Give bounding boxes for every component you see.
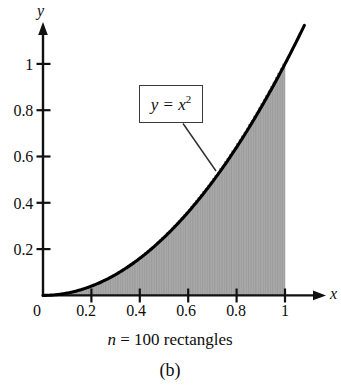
function-label-lhs: y — [151, 95, 159, 114]
riemann-rectangle — [246, 128, 248, 295]
riemann-rectangle — [171, 228, 173, 296]
riemann-rectangle — [234, 147, 236, 295]
riemann-rectangle — [183, 215, 185, 296]
riemann-rectangle — [176, 223, 178, 296]
riemann-rectangle — [135, 260, 137, 295]
riemann-rectangle — [125, 267, 127, 295]
riemann-rectangle — [159, 240, 161, 296]
riemann-rectangle — [268, 91, 270, 296]
riemann-rectangle — [263, 99, 265, 295]
riemann-rectangle — [147, 251, 149, 296]
caption-variable-n: n — [107, 330, 116, 349]
riemann-rectangle — [244, 132, 246, 295]
x-axis-label: x — [330, 286, 337, 302]
caption-equals: = — [116, 330, 134, 349]
riemann-rectangle — [210, 182, 212, 295]
riemann-rectangle — [237, 144, 239, 296]
x-tick-label-0.4: 0.4 — [126, 303, 145, 319]
riemann-rectangle — [193, 204, 195, 296]
riemann-rectangle — [227, 158, 229, 295]
y-tick-label-0.8: 0.8 — [14, 103, 33, 119]
riemann-rectangle — [261, 104, 263, 296]
riemann-rectangle — [154, 244, 156, 295]
riemann-rectangle — [149, 249, 151, 296]
riemann-rectangle — [256, 112, 258, 295]
x-tick-label-0.8: 0.8 — [226, 303, 245, 319]
riemann-rectangle — [275, 78, 277, 296]
riemann-rectangle — [111, 276, 113, 295]
riemann-rectangle — [152, 246, 154, 295]
figure-caption: n = 100 rectangles — [107, 331, 232, 348]
riemann-rectangle — [198, 198, 200, 296]
riemann-rectangle — [120, 270, 122, 295]
riemann-rectangle — [162, 238, 164, 296]
riemann-rectangle — [169, 230, 171, 295]
riemann-rectangle — [241, 136, 243, 295]
riemann-rectangle — [232, 151, 234, 295]
x-tick-label-1: 1 — [281, 303, 289, 319]
riemann-rectangle — [113, 275, 115, 296]
y-axis-label: y — [37, 3, 44, 19]
riemann-rectangle — [215, 175, 217, 295]
x-tick-label-0.2: 0.2 — [76, 303, 95, 319]
riemann-rectangle — [212, 179, 214, 296]
function-label-equals: = — [158, 95, 178, 114]
riemann-rectangle — [145, 253, 147, 296]
riemann-rectangle — [130, 264, 132, 296]
riemann-rectangle — [249, 124, 251, 295]
riemann-rectangle — [280, 69, 282, 296]
figure-container: 1 0.8 0.6 0.4 0.2 0 0.2 0.4 0.6 0.8 1 y … — [0, 0, 341, 388]
riemann-rectangle — [258, 108, 260, 296]
riemann-rectangle — [195, 201, 197, 296]
function-label-text: y = x2 — [151, 96, 192, 113]
callout-leader-line — [183, 124, 216, 172]
y-tick-label-0.4: 0.4 — [14, 196, 33, 212]
function-label-box: y = x2 — [139, 85, 203, 123]
x-tick-label-0: 0 — [33, 303, 41, 319]
riemann-rectangle — [203, 191, 205, 295]
riemann-rectangle — [225, 162, 227, 296]
riemann-rectangle — [251, 120, 253, 295]
y-tick-label-1: 1 — [25, 57, 33, 73]
panel-label: (b) — [160, 361, 181, 379]
riemann-rectangle — [273, 82, 275, 295]
riemann-rectangle — [229, 155, 231, 296]
riemann-rectangle — [118, 272, 120, 296]
riemann-rectangle — [220, 169, 222, 296]
riemann-rectangle — [157, 242, 159, 295]
x-axis-arrowhead — [313, 291, 326, 301]
y-tick-label-0.2: 0.2 — [14, 242, 33, 258]
riemann-rectangle — [200, 195, 202, 296]
riemann-rectangle — [133, 262, 135, 295]
caption-rest: 100 rectangles — [134, 330, 233, 349]
riemann-rectangle — [166, 233, 168, 296]
y-tick-label-0.6: 0.6 — [14, 149, 33, 165]
riemann-rectangle — [239, 140, 241, 296]
riemann-rectangle — [191, 206, 193, 295]
riemann-rectangle — [123, 269, 125, 296]
riemann-rectangle — [186, 212, 188, 295]
riemann-rectangle — [188, 209, 190, 295]
riemann-rectangle — [164, 235, 166, 295]
x-tick-label-0.6: 0.6 — [176, 303, 195, 319]
riemann-rectangle — [116, 273, 118, 295]
riemann-rectangle — [128, 265, 130, 295]
riemann-rectangle — [181, 218, 183, 296]
riemann-rectangle — [254, 116, 256, 295]
riemann-rectangle — [222, 165, 224, 295]
riemann-rectangle — [270, 86, 272, 295]
y-axis-arrowhead — [38, 22, 48, 35]
riemann-rectangle — [205, 188, 207, 295]
riemann-rectangle — [217, 172, 219, 295]
riemann-rectangle — [174, 225, 176, 295]
riemann-rectangle — [208, 185, 210, 295]
riemann-rectangle — [142, 255, 144, 296]
riemann-rectangle — [283, 64, 285, 296]
riemann-rectangle — [266, 95, 268, 295]
riemann-rectangle — [278, 73, 280, 295]
function-label-exponent: 2 — [186, 93, 192, 105]
riemann-rectangle — [179, 220, 181, 295]
